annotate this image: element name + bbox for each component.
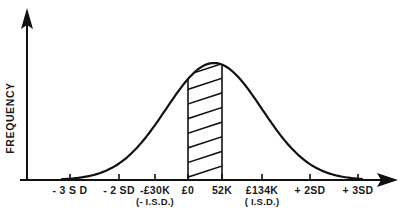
x-tick-label-7: + 3SD [343,184,374,196]
x-tick-sublabel-2: (- I.S.D.) [136,196,174,207]
hatch-line-4 [186,122,224,134]
chart-canvas: FREQUENCY - 3 S D- 2 SD-£30K(- I.S.D.)£0… [0,0,407,224]
x-tick-label-2: -£30K [140,184,170,196]
hatch-line-6 [186,92,224,104]
y-axis [21,8,33,180]
x-tick-sublabel-5: ( I.S.D.) [245,196,280,207]
x-axis-tick-labels: - 3 S D- 2 SD-£30K(- I.S.D.)£052K£134K( … [53,184,374,207]
x-tick-label-3: £0 [182,184,194,196]
shaded-band-hatching [186,63,224,192]
hatch-line-1 [186,165,224,177]
x-tick-label-6: + 2SD [295,184,326,196]
x-tick-label-5: £134K [246,184,279,196]
hatch-line-7 [186,78,224,90]
x-tick-label-4: 52K [212,184,232,196]
hatch-line-5 [186,107,224,119]
x-tick-label-0: - 3 S D [53,184,88,196]
x-tick-label-1: - 2 SD [103,184,135,196]
y-axis-title: FREQUENCY [4,82,16,153]
hatch-line-2 [186,151,224,163]
bell-curve-path [62,63,362,179]
hatch-line-3 [186,136,224,148]
bell-curve-figure: FREQUENCY - 3 S D- 2 SD-£30K(- I.S.D.)£0… [0,0,407,224]
